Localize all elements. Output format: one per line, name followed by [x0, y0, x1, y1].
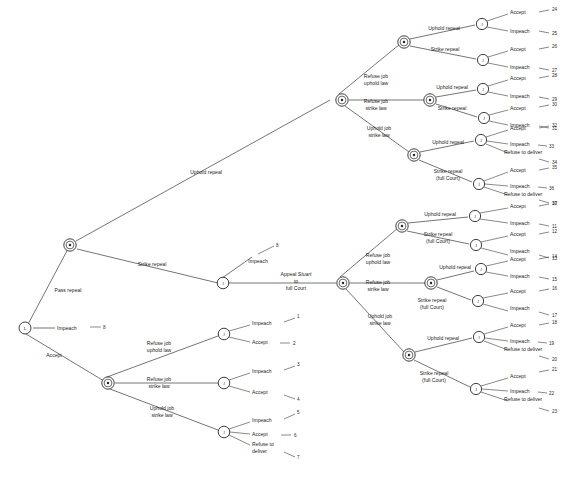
game-tree-figure: L Pass repeal Impeach 8 Accept Uphold re…	[0, 0, 572, 483]
branch-top-sub2: Uphold repeal Strike repeal J Accept Imp…	[424, 73, 558, 131]
leaf-tick-29	[539, 97, 549, 99]
node-court-t3a: J	[475, 134, 486, 145]
payoff-3: 3	[297, 362, 300, 367]
label-a2-strike-line1: Strike repeal	[418, 297, 447, 303]
leaf-edge-17	[483, 304, 508, 311]
payoff-8b: 8	[276, 243, 279, 248]
payoff-8: 8	[103, 325, 106, 330]
leaf-edge-30	[489, 110, 508, 115]
terminal-label-27: Impeach	[510, 64, 530, 70]
label-top-strike-law-line2b: strike law	[365, 105, 387, 111]
payoff-28: 28	[552, 73, 558, 78]
leaf-edge-5	[229, 422, 250, 429]
label-ac-strike-law-line2b: strike law	[148, 383, 170, 389]
label-t1-uphold-repeal: Uphold repeal	[428, 25, 460, 31]
leaf-tick-24	[539, 10, 549, 12]
branch-top-sub1: Uphold repeal Strike repeal J Accept Imp…	[398, 7, 558, 73]
terminal-label-28: Accept	[510, 75, 526, 81]
label-a3-strike-line1: Strike repeal	[420, 370, 449, 376]
leaf-tick-10	[539, 204, 549, 206]
label-ap-strike-law-line2c: strike law	[369, 320, 391, 326]
terminal-label-35: Accept	[510, 167, 526, 173]
label-t3-strike-line1: Strike repeal	[434, 168, 463, 174]
terminal-label-34: Refuse to deliver	[504, 149, 543, 155]
leaf-tick-14	[539, 257, 549, 259]
label-top-uphold-job-line1: Uphold job	[367, 125, 392, 131]
leaf-tick-36	[538, 187, 547, 188]
payoff-22: 22	[549, 391, 555, 396]
leaf-edge-11	[480, 219, 508, 223]
branch-appeal-sub2: Uphold repeal Strike repeal (full Court)…	[418, 254, 558, 318]
leaf-edge-2	[229, 337, 250, 342]
leaf-edge-3	[229, 373, 250, 380]
branch-top-hub: Refuse job uphold law Refuse job uphold …	[336, 44, 424, 152]
leaf-edge-35	[484, 172, 508, 181]
label-ap-strike-law-line2b: strike law	[367, 286, 389, 292]
node-court-a3a: J	[473, 331, 484, 342]
terminal-label-10: Accept	[510, 203, 526, 209]
terminal-label-30: Accept	[510, 105, 526, 111]
terminal-label-20: Refuse to deliver	[504, 346, 543, 352]
leaf-tick-11	[539, 224, 549, 226]
node-exec-ap-s2	[425, 277, 437, 289]
label-impeach-appeal: Impeach	[248, 258, 268, 264]
leaf-edge-29	[488, 92, 508, 96]
node-court-ac2: J	[218, 377, 230, 389]
leaf-edge-21	[481, 378, 508, 386]
terminal-label-21: Accept	[510, 373, 526, 379]
branch-appeal-sub3: Uphold repeal Strike repeal (full Court)…	[403, 320, 558, 414]
branch-appeal-hub: Refuse job uphold law Refuse job strike …	[337, 228, 425, 352]
leaf-tick-26	[539, 47, 549, 49]
terminal-label-6: Accept	[252, 431, 268, 437]
leaf-edge-12	[481, 236, 508, 242]
leaf-edge-13	[481, 248, 508, 255]
payoff-1: 1	[297, 314, 300, 319]
node-court-a2b: J	[472, 295, 483, 306]
leaf-edge-36	[485, 184, 508, 186]
payoff-5: 5	[297, 410, 300, 415]
node-root-glyph: L	[24, 326, 27, 331]
leaf-edge-25	[487, 27, 508, 31]
payoff-14: 14	[552, 254, 558, 259]
label-ac-uphold-job-line1: Uphold job	[150, 405, 175, 411]
branch-appeal-sub1: Uphold repeal Strike repeal (full Court)…	[396, 201, 558, 261]
label-impeach-root: Impeach	[57, 325, 77, 331]
payoff-35: 35	[552, 165, 558, 170]
leaf-tick-15	[539, 277, 549, 279]
node-exec-accept	[102, 377, 114, 389]
node-court-t1a: J	[476, 18, 487, 29]
edge-top-refuse-uphold	[339, 44, 400, 94]
terminal-label-1: Impeach	[252, 320, 272, 326]
label-top-uphold-law-line2: uphold law	[364, 80, 389, 86]
terminal-label-25: Impeach	[510, 28, 530, 34]
terminal-label-18: Accept	[510, 322, 526, 328]
leaf-edge-18	[484, 327, 508, 334]
label-accept-root: Accept	[46, 352, 62, 358]
label-a1-uphold-repeal: Uphold repeal	[424, 211, 456, 217]
label-top-refuse-job-line1b: Refuse job	[364, 98, 389, 104]
terminal-label-12: Accept	[510, 231, 526, 237]
payoff-36: 36	[549, 186, 555, 191]
node-court-t3b: J	[473, 178, 484, 189]
branch-top-sub3: Uphold repeal Strike repeal (full Court)…	[408, 123, 558, 206]
node-court-t2a: J	[477, 83, 488, 94]
leaf-edge-15	[486, 272, 508, 276]
leaf-edge-22	[482, 389, 508, 391]
terminal-label-33: Impeach	[510, 141, 530, 147]
label-pass-repeal: Pass repeal	[55, 287, 82, 293]
label-t3-uphold-repeal: Uphold repeal	[432, 139, 464, 145]
terminal-label-7-line1: Refuse to	[252, 441, 274, 447]
terminal-label-17: Impeach	[510, 305, 530, 311]
label-a3-strike-line2: (full Court)	[422, 377, 446, 383]
leaf-tick-7	[284, 452, 295, 457]
label-t3-strike-line2: (full Court)	[436, 175, 460, 181]
leaf-tick-20	[539, 356, 549, 359]
label-a2-uphold-repeal: Uphold repeal	[439, 264, 471, 270]
leaf-edge-26	[488, 51, 508, 57]
leaf-tick-30	[539, 105, 549, 107]
leaf-edge-28	[488, 80, 508, 86]
payoff-6: 6	[294, 433, 297, 438]
leaf-edge-19	[485, 338, 508, 341]
leaf-tick-3	[284, 366, 295, 370]
label-uphold-repeal-top: Uphold repeal	[190, 169, 222, 175]
